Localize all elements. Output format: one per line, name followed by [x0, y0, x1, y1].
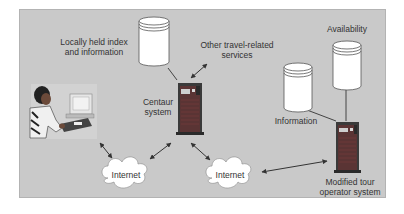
- centaur-label-line1: Centaur: [140, 97, 176, 107]
- other-services-label: Other travel-related services: [199, 40, 275, 60]
- arrow-internet-centaur: [150, 143, 171, 159]
- internet-left-label: Internet: [104, 170, 148, 180]
- information-db-cylinder-icon: [284, 63, 312, 112]
- availability-db-cylinder-icon: [333, 41, 361, 90]
- local-db-label-line1: Locally held index: [56, 37, 132, 47]
- tour-operator-label-line1: Modified tour: [318, 177, 382, 187]
- local-db-label-line2: and information: [56, 47, 132, 57]
- other-services-label-line2: services: [199, 50, 275, 60]
- arrow-centaur-internet: [191, 143, 210, 160]
- local-db-cylinder-icon: [139, 17, 169, 66]
- tour-operator-server-icon: [334, 122, 361, 173]
- information-label: Information: [269, 116, 323, 126]
- other-services-label-line1: Other travel-related: [199, 40, 275, 50]
- line-localdb-centaur: [168, 68, 177, 80]
- availability-label-text: Availability: [322, 24, 372, 34]
- internet-right-label: Internet: [208, 170, 252, 180]
- tour-operator-label: Modified tour operator system: [318, 177, 382, 197]
- arrow-centaur-services: [191, 64, 207, 78]
- local-db-label: Locally held index and information: [56, 37, 132, 57]
- tour-operator-label-line2: operator system: [318, 187, 382, 197]
- information-label-text: Information: [269, 116, 323, 126]
- user-at-computer-icon: [30, 84, 97, 139]
- centaur-label-line2: system: [140, 107, 176, 117]
- centaur-server-icon: [176, 83, 204, 135]
- centaur-label: Centaur system: [140, 97, 176, 117]
- arrow-internet-tour: [262, 161, 327, 172]
- availability-label: Availability: [322, 24, 372, 34]
- arrow-user-internet: [100, 143, 112, 158]
